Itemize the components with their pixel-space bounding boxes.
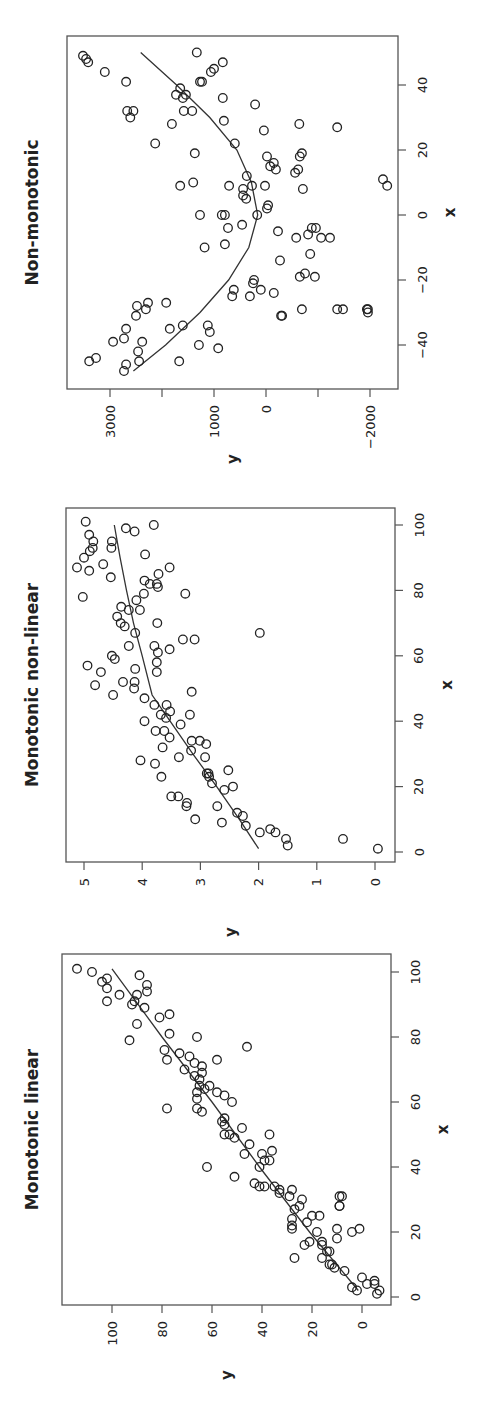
data-point	[224, 766, 233, 775]
data-point	[240, 1150, 249, 1159]
data-point	[198, 78, 207, 87]
data-point	[260, 1182, 269, 1191]
x-tick-label: 80	[412, 582, 427, 599]
data-point	[176, 720, 185, 729]
fit-curve	[112, 969, 358, 1291]
data-point	[138, 338, 147, 347]
data-point	[181, 589, 190, 598]
data-point	[257, 286, 266, 295]
data-point	[88, 968, 97, 977]
data-point	[348, 1228, 357, 1237]
x-tick-label: 40	[408, 1159, 423, 1176]
data-point	[238, 1124, 247, 1133]
data-point	[238, 221, 247, 230]
data-point	[255, 629, 264, 638]
data-point	[276, 256, 285, 265]
data-point	[73, 563, 82, 572]
y-tick-label: 2	[251, 878, 266, 886]
data-point	[125, 1036, 134, 1045]
data-point	[255, 828, 264, 837]
data-point	[292, 234, 301, 243]
data-point	[230, 1173, 239, 1182]
panel-title: Non-monotonic	[22, 139, 42, 285]
data-point	[132, 596, 141, 605]
data-point	[153, 668, 162, 677]
data-point	[335, 1202, 344, 1211]
y-tick-label: 100	[105, 1321, 120, 1346]
data-point	[165, 1010, 174, 1019]
y-tick-label: 1	[309, 878, 324, 886]
data-point	[140, 589, 149, 598]
data-point	[157, 773, 166, 782]
data-point	[274, 227, 283, 236]
data-point	[109, 338, 118, 347]
y-tick-label: 20	[305, 1321, 320, 1338]
data-point	[130, 527, 139, 536]
data-point	[298, 305, 307, 314]
x-tick-label: 0	[412, 848, 427, 856]
data-point	[151, 139, 160, 148]
data-point	[150, 521, 159, 530]
data-point	[107, 544, 116, 553]
data-point	[73, 965, 82, 974]
data-point	[154, 570, 163, 579]
data-point	[213, 802, 222, 811]
panel-monotonic-non-linear: Monotonic non-linear020406080100x012345y	[22, 508, 456, 937]
data-point	[313, 1228, 322, 1237]
data-point	[193, 1095, 202, 1104]
data-point	[219, 58, 228, 67]
y-tick-label: 3000	[103, 405, 118, 438]
data-point	[263, 152, 272, 161]
x-tick-label: −20	[415, 266, 430, 293]
data-point	[268, 1147, 277, 1156]
data-point	[153, 658, 162, 667]
data-point	[122, 325, 131, 334]
data-point	[306, 250, 315, 259]
data-point	[103, 997, 112, 1006]
x-tick-label: 20	[412, 778, 427, 795]
x-tick-label: 60	[412, 648, 427, 665]
y-tick-label: −2000	[363, 405, 378, 449]
data-point	[304, 230, 313, 239]
data-point	[120, 334, 129, 343]
data-point	[133, 1020, 142, 1029]
data-point	[333, 1225, 342, 1234]
data-point	[168, 120, 177, 129]
x-tick-label: 0	[408, 1293, 423, 1301]
y-tick-label: 80	[155, 1321, 170, 1338]
fit-curve	[133, 53, 257, 372]
plot-frame	[62, 954, 391, 1305]
data-point	[135, 357, 144, 366]
data-point	[374, 844, 383, 853]
data-point	[165, 645, 174, 654]
data-point	[333, 123, 342, 132]
data-point	[130, 684, 139, 693]
data-point	[379, 175, 388, 184]
data-point	[165, 733, 174, 742]
data-point	[190, 635, 199, 644]
data-point	[188, 107, 197, 116]
data-point	[133, 302, 142, 311]
data-point	[333, 1234, 342, 1243]
data-point	[155, 1013, 164, 1022]
fit-curve	[114, 525, 258, 849]
x-tick-label: 0	[415, 211, 430, 219]
data-point	[81, 517, 90, 526]
y-tick-label: 4	[135, 878, 150, 886]
data-point	[125, 606, 134, 615]
data-point	[99, 560, 108, 569]
panel-title: Monotonic non-linear	[22, 582, 42, 787]
x-tick-label: 80	[408, 1029, 423, 1046]
data-point	[153, 619, 162, 628]
x-tick-label: 20	[408, 1224, 423, 1241]
panel-monotonic-linear: Monotonic linear020406080100x02040608010…	[22, 954, 452, 1380]
data-point	[317, 234, 326, 243]
data-point	[132, 312, 141, 321]
data-point	[303, 1218, 312, 1227]
data-point	[165, 1030, 174, 1039]
y-tick-label: 0	[355, 1321, 370, 1329]
data-point	[218, 818, 227, 827]
data-point	[220, 1130, 229, 1139]
data-point	[200, 243, 209, 252]
data-point	[175, 753, 184, 762]
